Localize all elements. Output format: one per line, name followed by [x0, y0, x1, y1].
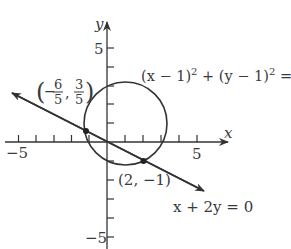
line-equation-label: x + 2y = 0 — [173, 198, 253, 216]
frac1-den: 5 — [54, 92, 62, 107]
paren-close: ) — [85, 78, 94, 106]
comma: , — [65, 85, 69, 101]
circle-equation-label: (x − 1)2 + (y − 1)2 = 5 — [141, 66, 291, 84]
eq-plus: + — [197, 68, 218, 84]
frac1-num: 6 — [54, 77, 62, 92]
coordinate-plane-diagram: x −5 5 y 5 −5 (x − 1)2 + (y − 1)2 = 5 — [0, 0, 291, 249]
intersection-point-neg6-5 — [83, 128, 89, 134]
x-axis-ticks — [19, 135, 198, 142]
eq-part-a: (x − 1) — [141, 68, 191, 84]
circle-curve — [84, 82, 167, 165]
frac2-den: 5 — [75, 92, 83, 107]
x-tick-label-5: 5 — [192, 145, 202, 163]
eq-part-b: (y − 1) — [219, 68, 269, 84]
point-label-2-neg1: (2, −1) — [118, 171, 171, 189]
intersection-point-2-neg1 — [141, 158, 147, 164]
y-axis-label: y — [94, 15, 104, 33]
y-tick-label-5: 5 — [94, 40, 104, 58]
x-axis: x −5 5 — [5, 124, 233, 163]
x-tick-label-neg5: −5 — [6, 144, 28, 162]
point-label-neg6-5-3-5: ( − 6 5 , 3 5 ) — [36, 77, 94, 107]
frac2-num: 3 — [75, 77, 83, 92]
y-tick-label-neg5: −5 — [85, 229, 107, 247]
eq-rhs: = 5 — [275, 68, 291, 84]
x-axis-label: x — [224, 124, 233, 142]
